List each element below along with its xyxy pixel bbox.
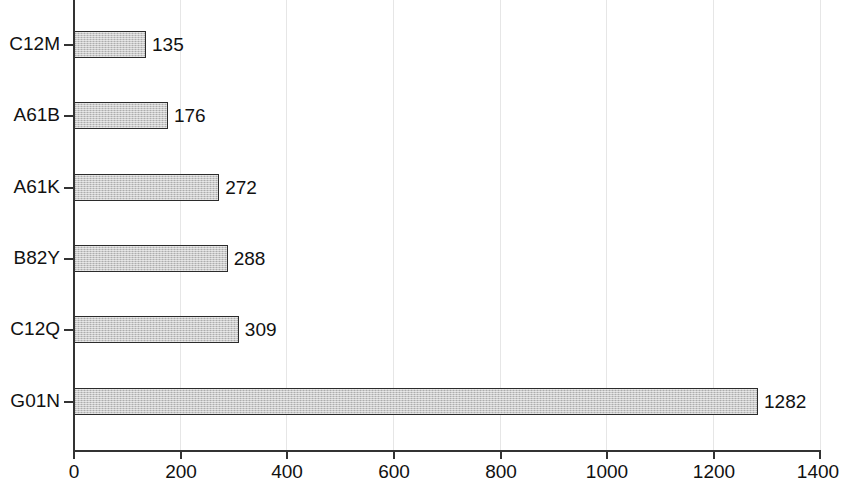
gridline <box>500 0 501 450</box>
y-axis-tick <box>64 401 74 403</box>
bar-value-label: 272 <box>225 177 257 199</box>
y-axis-tick <box>64 44 74 46</box>
bar-chart: 135 176 272 288 309 1282 C12M A61B A61K … <box>0 0 842 489</box>
x-axis-tick-label: 0 <box>69 461 80 483</box>
y-axis-tick-label: A61B <box>14 104 60 126</box>
bar-value-label: 288 <box>234 248 266 270</box>
bar <box>74 102 168 129</box>
y-axis-tick <box>64 329 74 331</box>
y-axis-tick-label: G01N <box>10 390 60 412</box>
x-axis-tick-label: 200 <box>165 461 197 483</box>
x-axis-tick <box>606 450 608 459</box>
bar-value-label: 135 <box>152 34 184 56</box>
bar <box>74 388 758 415</box>
x-axis-tick <box>500 450 502 459</box>
y-axis-tick <box>64 115 74 117</box>
y-axis-line <box>73 0 75 451</box>
bar <box>74 174 219 201</box>
gridline <box>393 0 394 450</box>
gridline <box>180 0 181 450</box>
y-axis-tick <box>64 258 74 260</box>
gridline <box>606 0 607 450</box>
bar-value-label: 1282 <box>764 391 806 413</box>
y-axis-tick-label: C12Q <box>10 318 60 340</box>
x-axis-tick-label: 1000 <box>586 461 628 483</box>
x-axis-tick-label: 800 <box>485 461 517 483</box>
x-axis-tick <box>180 450 182 459</box>
x-axis-tick <box>819 450 821 459</box>
gridline <box>286 0 287 450</box>
x-axis-tick-label: 1400 <box>797 461 839 483</box>
x-axis-tick <box>286 450 288 459</box>
gridline <box>820 0 821 450</box>
x-axis-tick-label: 1200 <box>693 461 735 483</box>
x-axis-line <box>73 450 821 452</box>
y-axis-tick-label: C12M <box>9 33 60 55</box>
y-axis-tick-label: B82Y <box>14 247 60 269</box>
gridline <box>713 0 714 450</box>
bar-value-label: 176 <box>174 105 206 127</box>
x-axis-tick <box>393 450 395 459</box>
plot-area: 135 176 272 288 309 1282 C12M A61B A61K … <box>0 0 842 489</box>
y-axis-tick-label: A61K <box>14 176 60 198</box>
x-axis-tick-label: 400 <box>271 461 303 483</box>
x-axis-tick <box>73 450 75 459</box>
bar <box>74 245 228 272</box>
bar <box>74 31 146 58</box>
x-axis-tick-label: 600 <box>378 461 410 483</box>
bar <box>74 316 239 343</box>
y-axis-tick <box>64 187 74 189</box>
x-axis-tick <box>713 450 715 459</box>
bar-value-label: 309 <box>245 319 277 341</box>
